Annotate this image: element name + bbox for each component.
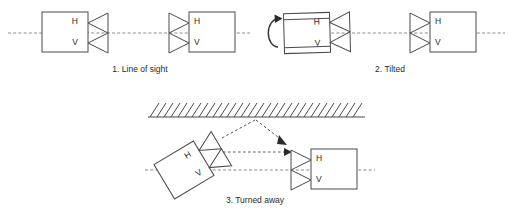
panel-2-caption: 2. Tilted [375, 64, 405, 74]
wall-hatching [150, 103, 362, 117]
receiver-h-label: H [435, 16, 441, 26]
receiver-h-antenna [291, 150, 311, 170]
transmitter-h-antenna [329, 12, 350, 33]
panel-1-receiver-unit: H V [169, 12, 235, 53]
rotation-arc [268, 19, 278, 47]
panel-2-transmitter-unit: H V [283, 12, 350, 54]
transmitter-h-label: H [72, 16, 78, 26]
panel-3: H V H V 3. Turned away [145, 103, 375, 205]
panel-3-receiver-unit: H V [291, 149, 357, 190]
reflected-ray-incident [222, 120, 255, 138]
panel-2: H V H V 2. Tilted [268, 12, 505, 74]
reflected-ray-arrowhead [277, 135, 287, 145]
receiver-v-label: V [316, 174, 322, 184]
transmitter-body [42, 12, 88, 52]
transmitter-h-label: H [313, 17, 319, 27]
panel-2-rotation-indicator [268, 15, 282, 48]
panel-3-caption: 3. Turned away [226, 195, 285, 205]
receiver-v-antenna [291, 170, 311, 190]
receiver-v-antenna [169, 33, 189, 53]
panel-3-reflected-ray [222, 120, 287, 145]
receiver-h-antenna [169, 13, 189, 33]
panel-3-reflecting-surface [148, 103, 365, 117]
rotation-arrowhead [275, 15, 283, 24]
antenna-alignment-diagram: H V H V 1. Line of sight H [0, 0, 510, 214]
panel-3-direct-ray [223, 148, 292, 156]
panel-1-caption: 1. Line of sight [112, 64, 168, 74]
panel-1: H V H V 1. Line of sight [8, 12, 250, 74]
receiver-h-label: H [194, 16, 200, 26]
receiver-h-antenna [410, 13, 430, 33]
transmitter-v-antenna [330, 32, 351, 53]
transmitter-v-label: V [314, 38, 320, 48]
transmitter-v-label: V [72, 37, 78, 47]
receiver-v-label: V [194, 37, 200, 47]
transmitter-h-antenna [88, 13, 108, 33]
receiver-v-antenna [410, 33, 430, 53]
panel-3-transmitter-unit: H V [154, 131, 232, 200]
receiver-v-label: V [435, 37, 441, 47]
receiver-h-label: H [316, 153, 322, 163]
transmitter-v-antenna [88, 33, 108, 53]
